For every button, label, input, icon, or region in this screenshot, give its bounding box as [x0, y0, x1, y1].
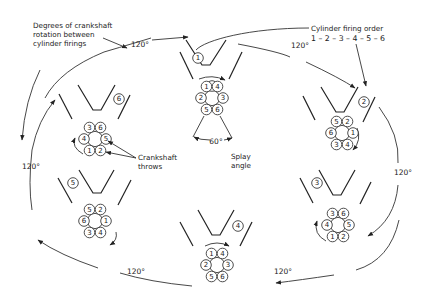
throw-label: 5	[334, 118, 338, 126]
throw-label: 2	[199, 94, 203, 102]
throw-label: 4	[345, 141, 350, 149]
throw-label: 2	[98, 147, 102, 155]
firing-cylinder-number: 1	[196, 54, 200, 62]
cylinder-bank-right	[360, 182, 371, 204]
cylinder-bank-left	[180, 52, 193, 79]
throw-label: 1	[87, 147, 91, 155]
throw-label: 6	[341, 210, 346, 218]
throw-label: 3	[226, 261, 230, 269]
stage-5: 5 5 2 1 4 3 6	[58, 170, 131, 245]
throw-label: 3	[334, 141, 338, 149]
throw-label: 4	[220, 250, 225, 258]
throw-label: 1	[204, 83, 208, 91]
throw-label: 6	[215, 106, 220, 114]
firing-cylinder-number: 4	[236, 222, 241, 230]
cylinder-bank-left	[180, 222, 193, 246]
rotation-cycle	[30, 37, 399, 286]
throw-label: 3	[221, 94, 225, 102]
cylinder-bank-v	[321, 87, 358, 112]
degrees-note-line3: cylinder firings	[33, 39, 87, 48]
throw-label: 5	[347, 221, 351, 229]
cylinder-bank-right	[118, 180, 131, 205]
throw-label: 5	[204, 106, 208, 114]
rotation-label-left: 120°	[22, 162, 40, 171]
throw-label: 6	[329, 129, 334, 137]
firing-cylinder-number: 2	[362, 98, 366, 106]
stage-1: 1 1 1 4 3 6 5 2 60° Splay angle	[180, 40, 252, 170]
cylinder-bank-left	[300, 178, 313, 203]
degrees-note-line1: Degrees of crankshaft	[33, 21, 113, 30]
cylinder-bank-right	[229, 52, 242, 79]
splay-line-left	[193, 116, 204, 137]
crankshaft-throws: 3 6 5 2 1 4	[79, 122, 112, 156]
v6-firing-order-diagram: Degrees of crankshaft rotation between c…	[0, 0, 423, 308]
splay-label-line2: angle	[231, 161, 252, 170]
rotation-direction-arrow	[199, 77, 225, 80]
crankshaft-throws-label-line2: throws	[138, 162, 162, 171]
throw-label: 5	[87, 206, 91, 214]
cylinder-bank-left	[59, 94, 72, 119]
firing-order-value: 1 – 2 – 3 – 4 – 5 – 6	[311, 34, 385, 43]
cylinder-bank-v	[78, 85, 115, 110]
arc-bottom-left-b	[38, 240, 98, 268]
rotation-label-top-left: 120°	[131, 40, 149, 49]
cylinder-bank-v	[319, 170, 355, 195]
arc-right-b	[368, 185, 398, 236]
arc-left-b	[32, 100, 55, 150]
cylinder-bank-left	[303, 96, 315, 120]
throw-label: 5	[104, 135, 108, 143]
firing-order-title: Cylinder firing order	[311, 24, 383, 33]
throw-label: 1	[209, 250, 213, 258]
throw-label: 4	[325, 221, 330, 229]
firing-cylinder-number: 3	[315, 179, 319, 187]
cylinder-bank-v	[79, 170, 114, 193]
stage-6: 6 3 6 5 2 1 4 Crankshaft throws	[59, 85, 177, 171]
throw-label: 1	[104, 217, 108, 225]
degrees-note-line2: rotation between	[33, 30, 95, 39]
throw-label: 3	[87, 124, 91, 132]
throw-label: 2	[204, 261, 208, 269]
rotation-direction-arrow	[205, 243, 229, 246]
arc-right-a	[379, 107, 398, 163]
crankshaft-throws: 5 2 1 4 3 6	[79, 204, 112, 238]
firing-order-leader-2	[356, 44, 366, 86]
throw-label: 3	[87, 229, 91, 237]
throw-label: 6	[82, 217, 87, 225]
firing-cylinder-number: 5	[71, 179, 75, 187]
cylinder-bank-v	[198, 210, 234, 235]
throw-label: 1	[351, 129, 355, 137]
throw-label: 5	[209, 273, 213, 281]
arc-top-right-a	[238, 44, 290, 57]
firing-order-note: Cylinder firing order 1 – 2 – 3 – 4 – 5 …	[196, 24, 385, 86]
arc-left-a	[30, 150, 32, 210]
throw-label: 6	[98, 124, 103, 132]
arc-bottom-right-b	[276, 275, 334, 283]
arc-top-left-arrow	[152, 37, 188, 40]
throw-label: 2	[98, 206, 102, 214]
throw-label: 4	[98, 229, 103, 237]
rotation-label-bottom-left: 120°	[127, 267, 145, 276]
stage-4: 4 1 4 3 6 5 2	[180, 210, 252, 282]
crankshaft-throws-label-line1: Crankshaft	[138, 153, 177, 162]
throw-label: 3	[330, 210, 334, 218]
stage-3: 3 3 6 5 2 1 4	[300, 170, 371, 242]
throw-label: 6	[220, 273, 225, 281]
rotation-label-top-right: 120°	[291, 41, 309, 50]
splay-angle-value: 60°	[209, 137, 223, 146]
arc-bottom-right-a	[356, 220, 399, 270]
throw-label: 4	[82, 135, 87, 143]
splay-arrow-right	[224, 138, 232, 140]
splay-line-right	[220, 116, 232, 138]
throw-label: 2	[345, 118, 349, 126]
stage-2: 2 5 2 1 4 3 6	[303, 87, 375, 150]
crankshaft-throws: 5 2 1 4 3 6	[326, 116, 359, 150]
throw-label: 2	[341, 233, 345, 241]
degrees-note: Degrees of crankshaft rotation between c…	[22, 21, 127, 140]
degrees-note-arrow-left	[22, 70, 40, 140]
crankshaft-throws: 1 4 3 6 5 2	[201, 248, 234, 282]
splay-arrow-left	[194, 137, 210, 140]
splay-label-line1: Splay	[231, 152, 252, 161]
crankshaft-throws: 3 6 5 2 1 4	[322, 208, 355, 242]
arc-top-right-b	[306, 62, 355, 88]
rotation-label-bottom-right: 120°	[274, 267, 292, 276]
